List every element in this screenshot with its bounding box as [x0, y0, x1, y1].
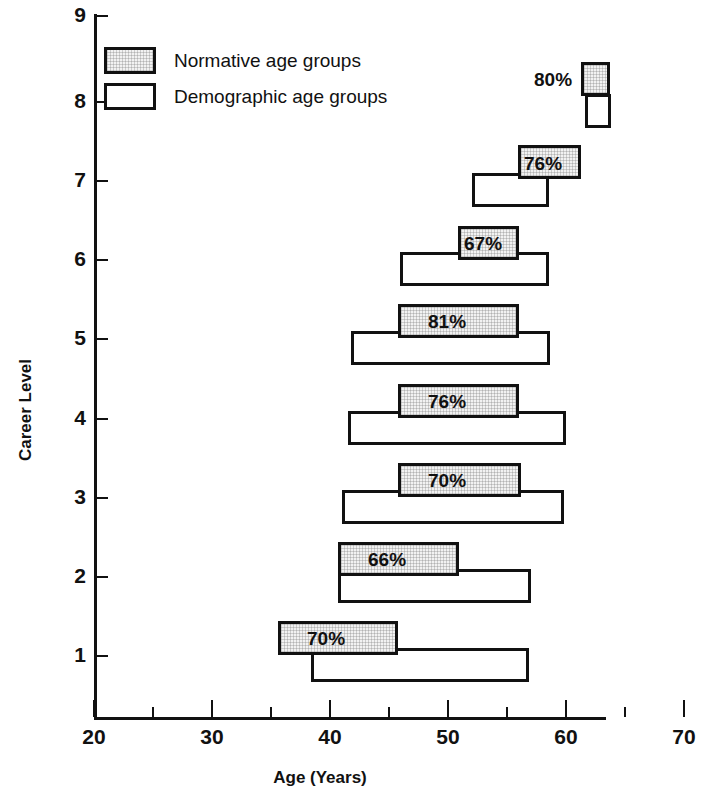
bar-normative-level-8: [581, 62, 610, 96]
x-tick-55: [506, 707, 508, 717]
chart-figure: 9 8 7 6 5 4 3 2 1 20 30 40 50 60 70 Age …: [0, 0, 714, 802]
y-tick-5: [97, 338, 108, 340]
y-tick-label-6: 6: [56, 248, 86, 269]
bar-label-level-5: 81%: [428, 312, 466, 331]
y-tick-label-3: 3: [56, 486, 86, 507]
x-tick-label-20: 20: [71, 726, 117, 747]
bar-label-level-8: 80%: [534, 70, 572, 89]
bar-label-level-6: 67%: [464, 234, 502, 253]
x-tick-40: [329, 700, 331, 717]
x-tick-label-40: 40: [307, 726, 353, 747]
bar-label-level-1: 70%: [307, 629, 345, 648]
legend-swatch-normative-icon: [104, 47, 156, 74]
bar-label-level-2: 66%: [368, 550, 406, 569]
y-tick-1: [97, 655, 108, 657]
x-tick-65: [624, 707, 626, 717]
x-axis-line: [94, 717, 606, 720]
x-tick-25: [152, 707, 154, 717]
x-axis-title: Age (Years): [0, 768, 640, 788]
y-tick-7: [97, 180, 108, 182]
legend-swatch-demographic-icon: [104, 83, 156, 110]
y-tick-label-7: 7: [56, 169, 86, 190]
legend: Normative age groups Demographic age gro…: [104, 42, 387, 114]
x-tick-45: [388, 707, 390, 717]
legend-item-normative: Normative age groups: [104, 42, 387, 78]
x-tick-30: [211, 700, 213, 717]
x-tick-label-30: 30: [189, 726, 235, 747]
bar-label-level-4: 76%: [428, 392, 466, 411]
y-tick-6: [97, 259, 108, 261]
y-tick-label-1: 1: [56, 644, 86, 665]
bar-demographic-level-8: [585, 94, 611, 128]
bar-label-level-7: 76%: [524, 154, 562, 173]
legend-label-normative: Normative age groups: [174, 51, 361, 70]
y-tick-3: [97, 497, 108, 499]
y-tick-label-9: 9: [56, 4, 86, 25]
y-axis-line: [94, 14, 97, 720]
y-tick-label-8: 8: [56, 90, 86, 111]
y-tick-4: [97, 418, 108, 420]
x-tick-60: [565, 700, 567, 717]
x-tick-label-60: 60: [543, 726, 589, 747]
bar-label-level-3: 70%: [428, 471, 466, 490]
y-tick-label-4: 4: [56, 407, 86, 428]
x-tick-50: [447, 700, 449, 717]
x-tick-label-50: 50: [425, 726, 471, 747]
y-tick-2: [97, 576, 108, 578]
x-tick-35: [270, 707, 272, 717]
x-tick-label-70: 70: [661, 726, 707, 747]
x-tick-70: [683, 700, 685, 717]
x-tick-20: [93, 700, 95, 717]
legend-item-demographic: Demographic age groups: [104, 78, 387, 114]
y-tick-label-5: 5: [56, 327, 86, 348]
y-axis-title: Career Level: [16, 340, 36, 480]
legend-label-demographic: Demographic age groups: [174, 87, 387, 106]
y-tick-9: [97, 15, 108, 17]
y-tick-label-2: 2: [56, 565, 86, 586]
